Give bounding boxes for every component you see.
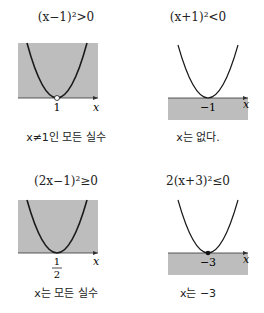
panel-2-x-plus-3-squared-le-0: 2(x+3)²≤0 −3 x x는 −3 (132, 160, 264, 313)
axis-label: x (93, 101, 100, 114)
solution-caption: x는 없다. (132, 128, 264, 144)
panel-2x-minus-1-squared-ge-0: (2x−1)²≥0 1 2 x x는 모든 실수 (0, 160, 132, 313)
filled-point-icon (206, 251, 211, 256)
vertex-label: −1 (200, 101, 216, 114)
panel-x-minus-1-squared-gt-0: (x−1)²>0 1 x x≠1인 모든 실수 (0, 0, 132, 156)
parabola-curve (178, 45, 238, 98)
vertex-label-numerator: 1 (54, 256, 60, 267)
solution-caption: x는 −3 (132, 284, 264, 300)
axis-label: x (243, 253, 250, 266)
vertex-label: 1 (54, 101, 61, 114)
panel-x-plus-1-squared-lt-0: (x+1)²<0 −1 x x는 없다. (132, 0, 264, 156)
vertex-label: −3 (200, 256, 216, 269)
parabola-curve (178, 200, 238, 253)
vertex-label-denominator: 2 (54, 269, 60, 280)
axis-label: x (243, 98, 250, 111)
open-point-icon (55, 96, 60, 101)
solution-caption: x는 모든 실수 (0, 284, 132, 300)
axis-label: x (93, 255, 100, 268)
solution-caption: x≠1인 모든 실수 (0, 128, 132, 144)
